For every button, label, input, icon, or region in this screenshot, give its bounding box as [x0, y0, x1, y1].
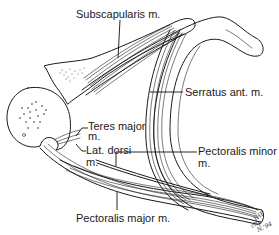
label-pectoralis-minor: Pectoralis minor	[198, 145, 277, 157]
label-lat-dorsi-m: m.	[86, 156, 98, 168]
humerus-stipple	[19, 101, 47, 129]
label-serratus-anterior: Serratus ant. m.	[185, 86, 263, 98]
label-lat-dorsi: Lat. dorsi	[86, 144, 131, 156]
anatomy-diagram: Subscapularis m. Serratus ant. m. Teres …	[0, 0, 279, 235]
subscapularis-muscle	[82, 25, 184, 95]
label-pectoralis-major: Pectoralis major m.	[76, 212, 170, 224]
leader-lat-dorsi	[76, 144, 86, 151]
leader-subscapularis	[118, 20, 120, 58]
label-teres-major-m: m.	[88, 130, 100, 142]
label-subscapularis: Subscapularis m.	[76, 8, 160, 20]
humerus-head	[7, 87, 71, 150]
label-pectoralis-minor-m: m.	[198, 157, 210, 169]
scapula-stipple	[60, 68, 85, 82]
